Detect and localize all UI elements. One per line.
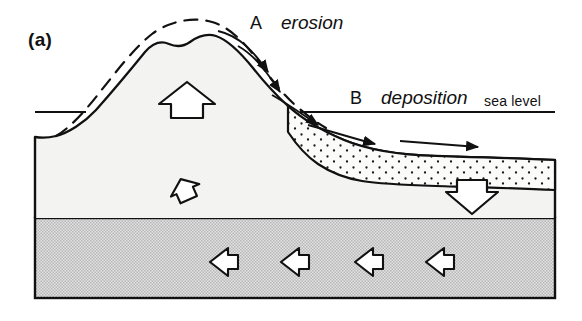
figure-panel-a: (a) A erosion B deposition sea level	[0, 0, 582, 321]
geology-cross-section-diagram	[0, 0, 582, 321]
deposition-key-label: B	[350, 89, 362, 107]
deposition-label: deposition	[381, 88, 468, 107]
erosion-label: erosion	[281, 13, 343, 32]
panel-label: (a)	[28, 30, 52, 49]
erosion-key-label: A	[250, 14, 262, 32]
sea-level-label: sea level	[484, 94, 541, 108]
